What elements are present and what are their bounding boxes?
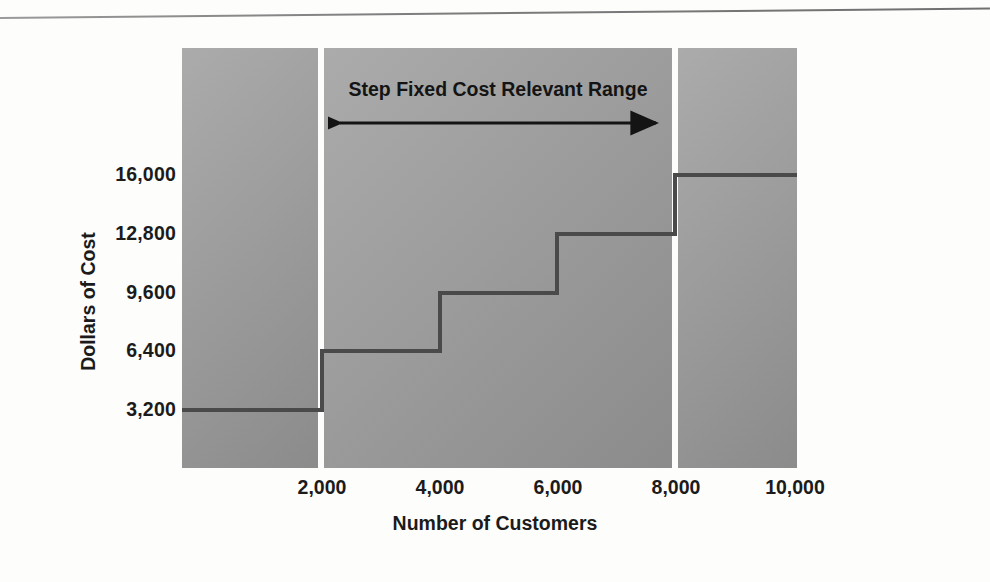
x-tick-10000: 10,000 (725, 478, 865, 498)
y-tick-16000: 16,000 (56, 165, 176, 185)
plot-area: Step Fixed Cost Relevant Range (182, 48, 797, 468)
y-tick-12800: 12,800 (56, 224, 176, 244)
x-axis-title: Number of Customers (0, 512, 990, 535)
relevant-range-arrow-icon (328, 110, 668, 136)
relevant-range-label: Step Fixed Cost Relevant Range (332, 78, 664, 101)
y-axis-title: Dollars of Cost (77, 202, 100, 402)
y-tick-9600: 9,600 (56, 283, 176, 303)
y-tick-3200: 3,200 (56, 400, 176, 420)
y-axis: 16,000 12,800 9,600 6,400 3,200 Dollars … (50, 0, 176, 582)
y-tick-6400: 6,400 (56, 341, 176, 361)
step-fixed-cost-chart: Step Fixed Cost Relevant Range 16,000 12… (0, 0, 990, 582)
